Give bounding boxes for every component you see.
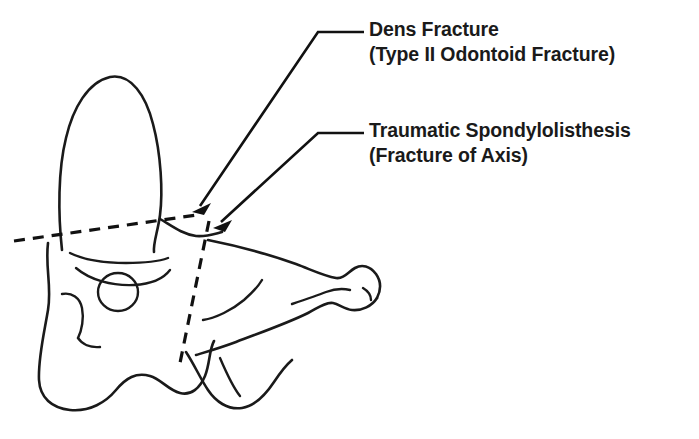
spinous-process-upper-border: [208, 240, 380, 298]
pars-interarticularis-fracture-line: [180, 221, 209, 363]
callout-traumatic-spondylolisthesis: Traumatic Spondylolisthesis (Fracture of…: [369, 118, 631, 168]
anatomical-figure: Dens Fracture (Type II Odontoid Fracture…: [0, 0, 699, 439]
anterior-tubercle-detail: [62, 294, 83, 338]
articular-facet-lower-line: [76, 268, 170, 285]
dens-base-fracture-line: [14, 215, 197, 241]
leader-line-traumatic-spondylolisthesis: [221, 133, 364, 222]
anterior-notch-detail: [78, 338, 100, 347]
spinous-process-tip-and-lower-border: [196, 298, 377, 355]
lamina-contour-line: [203, 280, 262, 320]
leader-line-dens-fracture: [200, 32, 364, 206]
inferior-articular-inner-contour: [220, 358, 240, 396]
callout-traumatic-spondylolisthesis-line2: (Fracture of Axis): [369, 143, 631, 168]
superior-articular-facet-line: [70, 253, 168, 263]
dens-odontoid-process-outline: [59, 77, 161, 252]
inferior-articular-process-outline: [186, 352, 292, 408]
spinous-process-inner-contour: [292, 289, 350, 304]
callout-dens-fracture-line2: (Type II Odontoid Fracture): [369, 42, 615, 67]
superior-vertebral-surface: [160, 219, 222, 236]
callout-dens-fracture: Dens Fracture (Type II Odontoid Fracture…: [369, 17, 615, 67]
callout-traumatic-spondylolisthesis-line1: Traumatic Spondylolisthesis: [369, 118, 631, 143]
vertebral-body-outline: [39, 243, 214, 410]
transverse-foramen: [98, 273, 138, 311]
spinous-tip-cleft-line: [363, 288, 371, 300]
callout-dens-fracture-line1: Dens Fracture: [369, 17, 615, 42]
